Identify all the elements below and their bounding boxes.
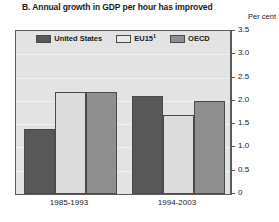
bars-layer bbox=[16, 31, 230, 194]
legend-footnote-marker-eu15: 1 bbox=[153, 33, 156, 39]
legend-swatch-icon-united-states bbox=[36, 35, 51, 43]
y-axis-tick bbox=[231, 100, 235, 101]
bar-1994-2003-eu15 bbox=[163, 115, 194, 194]
y-axis-tick bbox=[231, 123, 235, 124]
legend-item-eu15: EU151 bbox=[116, 35, 156, 43]
legend-swatch-icon-eu15 bbox=[116, 35, 131, 43]
y-axis-tick-label: 2.5 bbox=[238, 73, 249, 81]
y-axis-tick-label: 1.5 bbox=[238, 119, 249, 127]
legend-label-eu15-text: EU15 bbox=[134, 34, 153, 43]
bar-1985-1993-oecd bbox=[86, 92, 117, 194]
bar-1994-2003-united-states bbox=[132, 96, 163, 194]
y-axis-tick bbox=[231, 53, 235, 54]
y-axis-tick bbox=[231, 193, 235, 194]
y-axis-tick-label: 1.0 bbox=[238, 142, 249, 150]
bar-1985-1993-united-states bbox=[24, 129, 55, 194]
legend-label-eu15: EU151 bbox=[134, 35, 156, 43]
chart-figure: B. Annual growth in GDP per hour has imp… bbox=[0, 0, 279, 222]
y-axis-tick-label: 0 bbox=[238, 189, 242, 197]
y-axis-tick bbox=[231, 30, 235, 31]
y-axis-tick bbox=[231, 77, 235, 78]
y-axis-unit-label: Per cent bbox=[248, 12, 276, 21]
x-axis-category-labels: 1985-19931994-2003 bbox=[15, 198, 231, 212]
y-axis-tick-label: 3.0 bbox=[238, 49, 249, 57]
legend-item-united-states: United States bbox=[36, 35, 102, 43]
y-axis-tick-label: 2.0 bbox=[238, 96, 249, 104]
legend-label-united-states: United States bbox=[54, 35, 102, 43]
chart-title: B. Annual growth in GDP per hour has imp… bbox=[22, 2, 213, 12]
legend-label-oecd: OECD bbox=[188, 35, 210, 43]
legend-swatch-icon-oecd bbox=[170, 35, 185, 43]
y-axis-tick bbox=[231, 146, 235, 147]
y-axis-tick-label: 3.5 bbox=[238, 26, 249, 34]
legend-item-oecd: OECD bbox=[170, 35, 210, 43]
x-axis-label-1985-1993: 1985-1993 bbox=[15, 198, 123, 208]
y-axis-tick-label: 0.5 bbox=[238, 166, 249, 174]
y-axis-tick bbox=[231, 170, 235, 171]
chart-legend: United States EU151 OECD bbox=[15, 32, 231, 46]
bar-1994-2003-oecd bbox=[194, 101, 225, 194]
plot-area bbox=[15, 30, 231, 195]
x-axis-label-1994-2003: 1994-2003 bbox=[123, 198, 231, 208]
bar-1985-1993-eu15 bbox=[55, 92, 86, 194]
